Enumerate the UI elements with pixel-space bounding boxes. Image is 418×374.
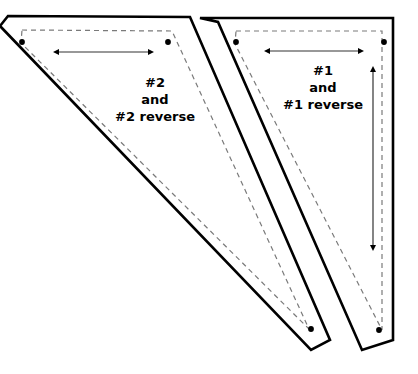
piece-2-dot-bottom [308, 326, 314, 332]
piece-2-dot-top-right [165, 39, 171, 45]
piece-2-label-line-3: #2 reverse [100, 108, 210, 125]
piece-2-label: #2 and #2 reverse [100, 74, 210, 125]
piece-1-label-line-2: and [268, 79, 378, 96]
piece-1-label-line-3: #1 reverse [268, 96, 378, 113]
piece-1-dot-bottom [376, 327, 382, 333]
piece-1-dot-top-left [233, 39, 239, 45]
pattern-sheet: #2 and #2 reverse #1 and #1 reverse [0, 0, 418, 374]
piece-1-label-line-1: #1 [268, 62, 378, 79]
piece-2-dot-top-left [19, 39, 25, 45]
piece-1-dot-top-right [381, 39, 387, 45]
piece-1-label: #1 and #1 reverse [268, 62, 378, 113]
piece-2-label-line-2: and [100, 91, 210, 108]
piece-2-label-line-1: #2 [100, 74, 210, 91]
pattern-drawing [0, 0, 418, 374]
